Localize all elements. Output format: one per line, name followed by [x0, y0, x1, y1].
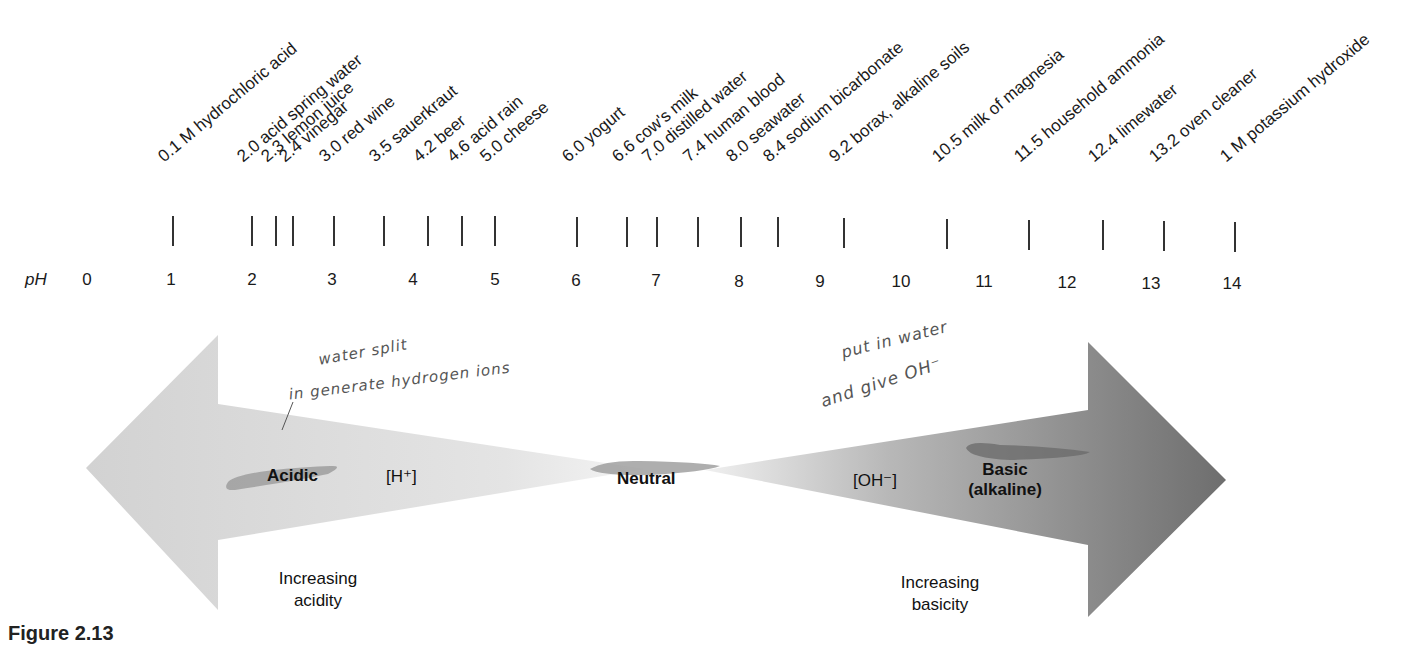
basic-label-line2: (alkaline) — [965, 480, 1045, 500]
hydroxide-ion-label: [OH⁻] — [853, 470, 897, 491]
basic-label-line1: Basic — [965, 460, 1045, 480]
increasing-acidity-line1: Increasing — [268, 568, 368, 590]
increasing-acidity-line2: acidity — [268, 590, 368, 612]
basic-label: Basic (alkaline) — [965, 460, 1045, 500]
figure-caption: Figure 2.13 — [8, 622, 114, 645]
acidic-label: Acidic — [267, 466, 318, 486]
increasing-basicity-label: Increasing basicity — [890, 572, 990, 616]
increasing-basicity-line1: Increasing — [890, 572, 990, 594]
increasing-acidity-label: Increasing acidity — [268, 568, 368, 612]
neutral-label: Neutral — [617, 469, 676, 489]
increasing-basicity-line2: basicity — [890, 594, 990, 616]
hydrogen-ion-label: [H⁺] — [386, 466, 417, 487]
